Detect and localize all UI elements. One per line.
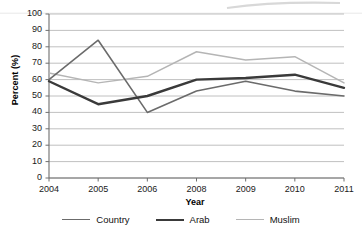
legend-item-muslim[interactable]: Muslim — [236, 214, 300, 225]
x-tick-label: 2008 — [177, 184, 217, 194]
horizontal-gridlines — [49, 14, 344, 178]
legend-label: Country — [96, 214, 129, 225]
legend-item-country[interactable]: Country — [62, 214, 129, 225]
legend-item-arab[interactable]: Arab — [156, 214, 210, 225]
legend-swatch-country — [62, 219, 90, 220]
x-tick-label: 2010 — [275, 184, 315, 194]
y-tick-label: 30 — [16, 123, 42, 133]
legend-label: Muslim — [270, 214, 300, 225]
chart-legend: CountryArabMuslim — [0, 214, 362, 225]
y-tick-label: 60 — [16, 74, 42, 84]
series-line-arab — [49, 75, 344, 105]
y-tick-label: 20 — [16, 139, 42, 149]
x-axis-title: Year — [40, 197, 350, 207]
x-tick-label: 2009 — [226, 184, 266, 194]
line-chart: Percent (%) Year 1009080706050403020100 … — [0, 0, 362, 240]
plot-area — [0, 0, 362, 200]
y-tick-label: 70 — [16, 57, 42, 67]
y-tick-label: 100 — [16, 8, 42, 18]
legend-swatch-muslim — [236, 219, 264, 220]
x-tick-label: 2006 — [127, 184, 167, 194]
x-tick-label: 2011 — [324, 184, 362, 194]
x-tick-label: 2004 — [29, 184, 69, 194]
y-tick-label: 90 — [16, 24, 42, 34]
y-tick-label: 50 — [16, 90, 42, 100]
y-tick-label: 40 — [16, 106, 42, 116]
x-tick-label: 2005 — [78, 184, 118, 194]
legend-swatch-arab — [156, 219, 184, 221]
y-tick-label: 0 — [16, 172, 42, 182]
legend-label: Arab — [190, 214, 210, 225]
y-tick-label: 10 — [16, 156, 42, 166]
series-line-muslim — [49, 52, 344, 83]
y-tick-label: 80 — [16, 41, 42, 51]
